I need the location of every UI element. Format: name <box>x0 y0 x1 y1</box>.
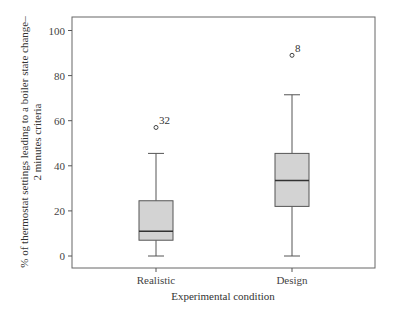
x-axis: RealisticDesign <box>137 268 308 286</box>
plot-frame <box>72 17 375 268</box>
outlier-label: 8 <box>295 42 301 54</box>
y-tick-label: 80 <box>54 70 66 82</box>
y-tick-label: 100 <box>49 25 66 37</box>
box-design: 8 <box>275 42 309 256</box>
y-tick-label: 60 <box>54 115 66 127</box>
boxplot-chart: 020406080100 RealisticDesign 328 Experim… <box>0 0 397 317</box>
y-axis-title-line1: % of thermostat settings leading to a bo… <box>18 16 30 268</box>
y-axis-title-line2: 2 minutes criteria <box>31 103 43 180</box>
outlier-label: 32 <box>159 114 170 126</box>
x-tick-label: Design <box>276 274 308 286</box>
box-realistic: 32 <box>139 114 173 256</box>
outlier-marker <box>154 125 158 129</box>
y-axis: 020406080100 <box>49 25 73 263</box>
y-tick-label: 40 <box>54 160 66 172</box>
outlier-marker <box>290 53 294 57</box>
y-axis-title: % of thermostat settings leading to a bo… <box>18 16 43 268</box>
y-tick-label: 0 <box>60 250 66 262</box>
y-tick-label: 20 <box>54 205 66 217</box>
x-axis-title: Experimental condition <box>171 290 275 302</box>
x-tick-label: Realistic <box>137 274 176 286</box>
box-series: 328 <box>139 42 309 256</box>
iqr-box <box>139 201 173 240</box>
